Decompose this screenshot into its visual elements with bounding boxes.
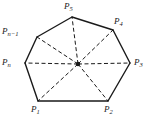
vertex-label-p2: P2 bbox=[104, 105, 113, 114]
vertex-label-p5-base: P bbox=[64, 1, 70, 11]
vertex-label-p1: P1 bbox=[31, 105, 40, 114]
edge-p5-pn-minus-1 bbox=[37, 17, 72, 37]
diagonal-center-pn-minus-1 bbox=[37, 37, 78, 64]
vertex-label-pn-minus-1-sub: n−1 bbox=[8, 30, 19, 37]
edge-pn-minus-1-pn bbox=[25, 37, 37, 63]
vertex-label-pn-minus-1: Pn−1 bbox=[2, 27, 18, 36]
diagonal-center-p3 bbox=[78, 63, 130, 64]
diagonal-center-p5 bbox=[72, 17, 78, 64]
vertex-label-pn-minus-1-base: P bbox=[2, 26, 8, 36]
edge-p2-p3 bbox=[108, 63, 130, 101]
vertex-label-pn-sub: n bbox=[8, 61, 11, 68]
vertex-label-p2-base: P bbox=[104, 104, 110, 114]
polygon-solid-edges bbox=[25, 17, 130, 101]
vertex-label-p3: P3 bbox=[134, 58, 143, 67]
vertex-label-p1-base: P bbox=[31, 104, 37, 114]
vertex-label-pn-base: P bbox=[2, 57, 8, 67]
vertex-label-p4-base: P bbox=[114, 16, 120, 26]
vertex-label-p3-sub: 3 bbox=[140, 61, 143, 68]
polygon-diagram-svg bbox=[0, 0, 153, 120]
diagonal-center-p4 bbox=[78, 30, 113, 64]
edge-p4-p5 bbox=[72, 17, 113, 30]
vertex-label-p2-sub: 2 bbox=[110, 108, 113, 115]
vertex-label-p5-sub: 5 bbox=[70, 5, 73, 12]
vertex-label-p1-sub: 1 bbox=[37, 108, 40, 115]
vertex-label-p5: P5 bbox=[64, 2, 73, 11]
edge-pn-p1 bbox=[25, 63, 38, 101]
edge-p3-p4 bbox=[113, 30, 130, 63]
polygon-diagram-figure: P5 P4 P3 P2 P1 Pn Pn−1 bbox=[0, 0, 153, 120]
vertex-label-p4-sub: 4 bbox=[120, 20, 123, 27]
vertex-label-p3-base: P bbox=[134, 57, 140, 67]
diagonal-center-pn bbox=[25, 63, 78, 64]
polygon-dashed-diagonals bbox=[25, 17, 130, 101]
vertex-label-pn: Pn bbox=[2, 58, 11, 67]
diagonal-center-p1 bbox=[38, 64, 78, 101]
diagonal-center-p2 bbox=[78, 64, 108, 101]
vertex-label-p4: P4 bbox=[114, 17, 123, 26]
interior-point-marker bbox=[76, 62, 80, 66]
